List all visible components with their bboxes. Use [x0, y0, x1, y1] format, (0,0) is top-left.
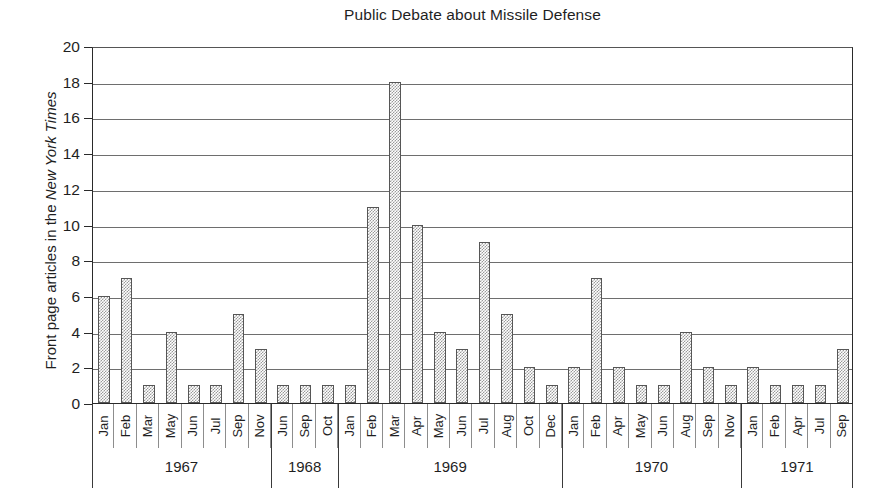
month-label: Jan [341, 416, 356, 437]
month-cell: Jan [92, 404, 114, 448]
year-divider [852, 404, 853, 488]
month-label: Feb [364, 415, 379, 437]
month-cell: Jul [204, 404, 226, 448]
bar [725, 385, 737, 403]
year-label: 1971 [741, 458, 853, 475]
bar [300, 385, 312, 403]
bar [837, 349, 849, 403]
bar [412, 225, 424, 404]
bar [747, 367, 759, 403]
month-cell: Jul [473, 404, 495, 448]
month-cell: Jul [808, 404, 830, 448]
month-label: Jan [96, 416, 111, 437]
y-tick-label-4: 4 [40, 325, 80, 341]
bar [345, 385, 357, 403]
chart-figure: Public Debate about Missile Defense Fron… [0, 0, 893, 491]
x-axis-month-labels: JanFebMarMayJunJulSepNovJunSepOctJanFebM… [92, 404, 853, 448]
year-divider [741, 404, 742, 488]
month-label: May [431, 414, 446, 439]
bar [815, 385, 827, 403]
month-label: Sep [834, 414, 849, 437]
bar [501, 314, 513, 403]
bar [658, 385, 670, 403]
month-label: Jul [811, 418, 826, 435]
month-label: Apr [409, 416, 424, 436]
month-label: Apr [610, 416, 625, 436]
month-cell: Sep [696, 404, 718, 448]
month-label: Aug [498, 414, 513, 437]
year-label: 1970 [562, 458, 741, 475]
month-cell: Sep [831, 404, 853, 448]
month-cell: Sep [226, 404, 248, 448]
month-cell: Mar [383, 404, 405, 448]
bar [389, 82, 401, 403]
month-cell: Oct [517, 404, 539, 448]
year-label: 1968 [271, 458, 338, 475]
month-label: Jul [476, 418, 491, 435]
month-label: May [162, 414, 177, 439]
month-label: Sep [229, 414, 244, 437]
month-label: Jan [565, 416, 580, 437]
month-cell: Jan [562, 404, 584, 448]
month-label: Mar [140, 415, 155, 437]
month-label: Nov [722, 414, 737, 437]
bar [210, 385, 222, 403]
month-cell: Feb [114, 404, 136, 448]
bar [524, 367, 536, 403]
year-divider [338, 404, 339, 488]
bar [367, 207, 379, 403]
month-cell: May [629, 404, 651, 448]
bar [613, 367, 625, 403]
plot-area [92, 47, 853, 404]
bar-series [93, 48, 852, 403]
month-label: Nov [252, 414, 267, 437]
month-cell: Feb [584, 404, 606, 448]
month-cell: Jan [338, 404, 360, 448]
month-label: Dec [543, 414, 558, 437]
month-label: Mar [386, 415, 401, 437]
year-group: 1968 [271, 448, 338, 488]
bar [680, 332, 692, 403]
bar [434, 332, 446, 403]
month-cell: Feb [361, 404, 383, 448]
bar [166, 332, 178, 403]
year-label: 1969 [338, 458, 562, 475]
bar [188, 385, 200, 403]
month-label: Sep [700, 414, 715, 437]
month-label: Apr [789, 416, 804, 436]
year-divider [92, 404, 93, 488]
month-label: Feb [767, 415, 782, 437]
year-group: 1969 [338, 448, 562, 488]
bar [546, 385, 558, 403]
month-cell: Apr [405, 404, 427, 448]
y-tick-label-18: 18 [40, 75, 80, 91]
month-label: Oct [319, 416, 334, 436]
bar [591, 278, 603, 403]
bar [568, 367, 580, 403]
bar [121, 278, 133, 403]
year-group: 1970 [562, 448, 741, 488]
bar [792, 385, 804, 403]
y-tick-label-2: 2 [40, 360, 80, 376]
year-divider [271, 404, 272, 488]
month-label: Feb [588, 415, 603, 437]
month-cell: Oct [316, 404, 338, 448]
month-label: Oct [520, 416, 535, 436]
month-cell: Jan [741, 404, 763, 448]
month-cell: Sep [293, 404, 315, 448]
month-label: May [632, 414, 647, 439]
month-label: Feb [118, 415, 133, 437]
year-group: 1967 [92, 448, 271, 488]
y-tick-label-10: 10 [40, 218, 80, 234]
bar [479, 242, 491, 403]
bar [636, 385, 648, 403]
month-label: Jun [185, 416, 200, 437]
y-axis-tick-labels: 02468101214161820 [36, 0, 80, 491]
year-divider [562, 404, 563, 488]
x-axis-year-labels: 19671968196919701971 [92, 448, 853, 488]
bar [233, 314, 245, 403]
month-cell: Feb [763, 404, 785, 448]
month-label: Jun [453, 416, 468, 437]
month-cell: Dec [540, 404, 562, 448]
y-tick-label-12: 12 [40, 182, 80, 198]
